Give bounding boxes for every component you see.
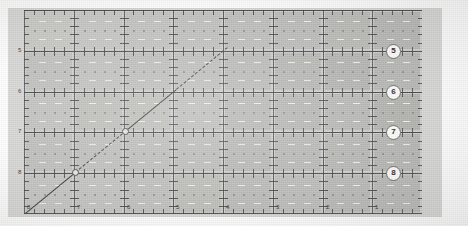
minor-tick xyxy=(84,88,85,97)
minor-tick xyxy=(203,10,204,15)
minor-tick xyxy=(269,165,278,166)
minor-tick xyxy=(233,128,234,137)
interior-dash xyxy=(254,103,261,104)
interior-dash xyxy=(89,162,96,163)
minor-tick xyxy=(169,141,178,142)
minor-tick xyxy=(213,128,214,137)
interior-dot xyxy=(44,30,46,32)
interior-dot xyxy=(133,194,135,196)
interior-dot xyxy=(133,30,135,32)
interior-dash xyxy=(154,39,161,40)
minor-tick xyxy=(70,141,79,142)
interior-dot xyxy=(163,71,165,73)
minor-tick xyxy=(253,88,254,97)
interior-dot xyxy=(153,194,155,196)
minor-tick xyxy=(368,100,377,101)
interior-dash xyxy=(204,144,211,145)
minor-tick xyxy=(70,34,79,35)
minor-tick xyxy=(319,198,328,199)
interior-dot xyxy=(84,194,86,196)
minor-tick xyxy=(70,108,79,109)
minor-tick xyxy=(70,67,79,68)
interior-dash xyxy=(105,162,112,163)
minor-tick xyxy=(319,165,328,166)
interior-dot xyxy=(263,71,265,73)
interior-dot xyxy=(44,71,46,73)
interior-dash xyxy=(89,203,96,204)
minor-tick xyxy=(94,10,95,15)
interior-dash xyxy=(403,144,410,145)
minor-tick xyxy=(313,47,314,56)
interior-dash xyxy=(403,39,410,40)
minor-tick xyxy=(219,34,228,35)
minor-tick xyxy=(332,10,333,15)
minor-tick xyxy=(269,124,278,125)
minor-tick xyxy=(352,128,353,137)
interior-dash xyxy=(154,121,161,122)
interior-dot xyxy=(203,112,205,114)
interior-dash xyxy=(154,21,161,22)
interior-dot xyxy=(183,112,185,114)
minor-tick xyxy=(332,169,333,178)
interior-dash xyxy=(204,21,211,22)
minor-tick xyxy=(84,209,85,214)
minor-tick xyxy=(332,128,333,137)
interior-dot xyxy=(54,194,56,196)
interior-dot xyxy=(402,153,404,155)
interior-dot xyxy=(54,30,56,32)
interior-dash xyxy=(387,144,394,145)
minor-tick xyxy=(418,190,422,191)
minor-tick xyxy=(368,34,377,35)
minor-tick xyxy=(313,169,314,178)
minor-tick xyxy=(163,88,164,97)
interior-dot xyxy=(34,112,36,114)
minor-tick xyxy=(352,209,353,214)
node-badge-8[interactable]: 8 xyxy=(386,166,401,181)
interior-dot xyxy=(64,71,66,73)
interior-dash xyxy=(39,203,46,204)
minor-tick xyxy=(203,47,204,56)
minor-tick xyxy=(70,157,79,158)
interior-dot xyxy=(283,71,285,73)
minor-tick xyxy=(269,157,278,158)
interior-dash xyxy=(353,39,360,40)
minor-tick xyxy=(24,83,29,84)
interior-dash xyxy=(238,144,245,145)
minor-tick xyxy=(418,157,422,158)
node-badge-5[interactable]: 5 xyxy=(386,44,401,59)
interior-dot xyxy=(143,153,145,155)
interior-dash xyxy=(353,185,360,186)
minor-tick xyxy=(94,209,95,214)
interior-dot xyxy=(143,30,145,32)
minor-tick xyxy=(163,128,164,137)
interior-dot xyxy=(193,194,195,196)
minor-tick xyxy=(219,181,228,182)
interior-dot xyxy=(183,71,185,73)
node-badge-6[interactable]: 6 xyxy=(386,85,401,100)
interior-dash xyxy=(55,103,62,104)
interior-dot xyxy=(342,30,344,32)
interior-dot xyxy=(183,30,185,32)
interior-dot xyxy=(263,30,265,32)
figure-canvas: 5678 5678 87654321 xyxy=(0,0,468,226)
minor-tick xyxy=(169,59,178,60)
interior-dash xyxy=(204,162,211,163)
minor-tick xyxy=(263,169,264,178)
minor-tick xyxy=(283,10,284,15)
minor-tick xyxy=(319,116,328,117)
interior-dot xyxy=(412,30,414,32)
minor-tick xyxy=(418,181,422,182)
interior-dot xyxy=(94,194,96,196)
minor-tick xyxy=(104,128,105,137)
interior-dot xyxy=(203,30,205,32)
minor-tick xyxy=(412,169,413,178)
minor-tick xyxy=(54,47,55,56)
minor-tick xyxy=(84,47,85,56)
minor-tick xyxy=(269,34,278,35)
node-badge-7[interactable]: 7 xyxy=(386,125,401,140)
minor-tick xyxy=(133,209,134,214)
interior-dot xyxy=(64,153,66,155)
interior-dot xyxy=(94,30,96,32)
minor-tick xyxy=(283,209,284,214)
minor-tick xyxy=(169,198,178,199)
